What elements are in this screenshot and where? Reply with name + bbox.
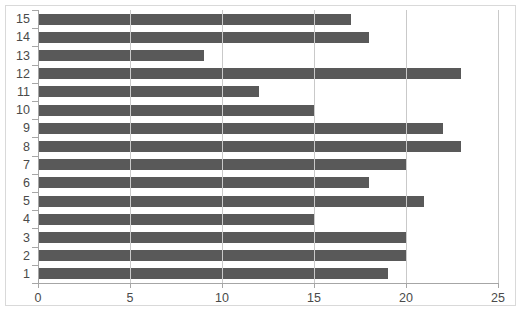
bar-6 <box>38 177 369 188</box>
bar-chart: 123456789101112131415 0510152025 <box>0 0 522 313</box>
bar-8 <box>38 141 461 152</box>
bar-12 <box>38 68 461 79</box>
x-axis-line <box>38 283 499 284</box>
gridline-x-10 <box>222 10 223 283</box>
y-axis-tick-label: 3 <box>23 231 30 245</box>
x-axis-tick-label: 15 <box>307 291 321 305</box>
bar-row <box>38 196 498 207</box>
y-axis-tick <box>32 174 38 175</box>
bar-14 <box>38 32 369 43</box>
bar-1 <box>38 268 388 279</box>
y-axis-tick-label: 9 <box>23 121 30 135</box>
y-axis-tick-label: 4 <box>23 212 30 226</box>
y-axis-tick <box>32 192 38 193</box>
bar-row <box>38 86 498 97</box>
x-axis-tick-label: 10 <box>215 291 229 305</box>
gridline-x-20 <box>406 10 407 283</box>
y-axis-tick-label: 6 <box>23 176 30 190</box>
bar-row <box>38 68 498 79</box>
bar-9 <box>38 123 443 134</box>
bar-row <box>38 232 498 243</box>
bar-4 <box>38 214 314 225</box>
x-axis-tick <box>38 283 39 288</box>
bar-row <box>38 141 498 152</box>
y-axis-tick <box>32 228 38 229</box>
bar-11 <box>38 86 259 97</box>
y-axis-tick <box>32 10 38 11</box>
y-axis-tick-label: 11 <box>17 85 30 99</box>
y-axis-tick <box>32 137 38 138</box>
bar-row <box>38 177 498 188</box>
y-axis-tick-label: 14 <box>16 30 30 44</box>
bar-row <box>38 32 498 43</box>
bar-row <box>38 268 498 279</box>
plot-area <box>38 10 498 283</box>
y-axis-tick <box>32 247 38 248</box>
y-axis-tick <box>32 46 38 47</box>
y-axis-tick <box>32 101 38 102</box>
x-axis-tick-label: 20 <box>399 291 413 305</box>
y-axis-tick-label: 12 <box>16 67 30 81</box>
y-axis-tick-label: 8 <box>23 140 30 154</box>
gridline-x-5 <box>130 10 131 283</box>
y-axis-tick <box>32 156 38 157</box>
bar-row <box>38 50 498 61</box>
bar-5 <box>38 196 424 207</box>
x-axis-tick <box>222 283 223 288</box>
gridline-x-25 <box>498 10 499 283</box>
x-axis-tick-label: 25 <box>491 291 505 305</box>
bar-13 <box>38 50 204 61</box>
y-axis-tick-label: 15 <box>16 12 30 26</box>
bar-row <box>38 159 498 170</box>
x-axis-tick-label: 0 <box>35 291 42 305</box>
y-axis-tick <box>32 283 38 284</box>
y-axis-tick-label: 1 <box>23 267 30 281</box>
gridline-x-15 <box>314 10 315 283</box>
y-axis-tick-label: 2 <box>23 249 30 263</box>
bar-row <box>38 14 498 25</box>
y-axis-tick-label: 7 <box>23 158 30 172</box>
bar-row <box>38 214 498 225</box>
y-axis-tick-label: 10 <box>16 103 30 117</box>
bar-row <box>38 250 498 261</box>
bar-15 <box>38 14 351 25</box>
y-axis-tick <box>32 65 38 66</box>
x-axis-tick <box>498 283 499 288</box>
y-axis-tick-label: 5 <box>23 194 30 208</box>
y-axis-tick <box>32 83 38 84</box>
bar-row <box>38 105 498 116</box>
x-axis-tick-label: 5 <box>127 291 134 305</box>
y-axis-tick <box>32 210 38 211</box>
y-axis-tick-labels: 123456789101112131415 <box>0 0 30 313</box>
x-axis-tick <box>314 283 315 288</box>
x-axis-tick <box>406 283 407 288</box>
bar-row <box>38 123 498 134</box>
bar-series <box>38 10 498 283</box>
y-axis-tick <box>32 265 38 266</box>
y-axis-tick <box>32 28 38 29</box>
bar-10 <box>38 105 314 116</box>
y-axis-tick-label: 13 <box>16 49 30 63</box>
y-axis-line <box>38 10 39 284</box>
y-axis-tick <box>32 119 38 120</box>
x-axis-tick <box>130 283 131 288</box>
